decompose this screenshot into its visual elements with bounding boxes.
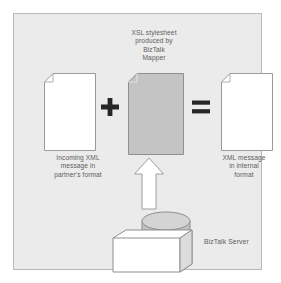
output-xml-document: [221, 73, 273, 151]
incoming-xml-document: [44, 73, 96, 151]
arrow-up-icon: [133, 157, 165, 210]
internal-message-caption: XML message in internal format: [196, 154, 281, 179]
box-3d-icon: [113, 230, 192, 272]
biztalk-server-label: BizTalk Server: [204, 238, 281, 246]
equals-operator-icon: [191, 99, 211, 115]
incoming-message-caption: Incoming XML message in partner's format: [28, 154, 128, 179]
plus-operator-icon: [100, 97, 120, 117]
xsl-stylesheet-title: XSL stylesheet produced by BizTalk Mappe…: [102, 29, 206, 63]
xsl-stylesheet-document: [128, 73, 184, 155]
diagram-root: XSL stylesheet produced by BizTalk Mappe…: [0, 0, 281, 283]
biztalk-server-graphic: [112, 210, 204, 282]
diagram-frame: XSL stylesheet produced by BizTalk Mappe…: [13, 13, 262, 270]
